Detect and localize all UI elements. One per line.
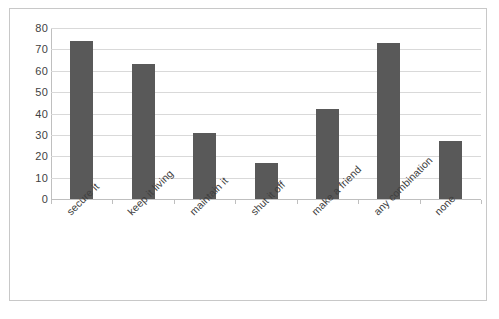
- y-axis-tick-label: 70: [22, 44, 48, 55]
- gridline: [51, 92, 481, 93]
- gridline: [51, 28, 481, 29]
- bar: [377, 43, 400, 199]
- gridline: [51, 114, 481, 115]
- y-axis-tick-label: 60: [22, 66, 48, 77]
- x-axis-tick-mark: [174, 200, 175, 204]
- chart-plot-wrapper: 80706050403020100 secure itkeep it livin…: [10, 9, 486, 300]
- y-axis-tick-label: 20: [22, 151, 48, 162]
- x-axis-tick-mark: [112, 200, 113, 204]
- y-axis-tick-label: 0: [22, 194, 48, 205]
- y-axis-tick-label: 80: [22, 23, 48, 34]
- y-axis-tick-label: 50: [22, 87, 48, 98]
- y-axis-tick-label: 30: [22, 130, 48, 141]
- bar: [132, 64, 155, 199]
- gridline: [51, 156, 481, 157]
- bar: [70, 41, 93, 199]
- gridline: [51, 71, 481, 72]
- x-axis-tick-mark: [420, 200, 421, 204]
- x-axis-tick-mark: [51, 200, 52, 204]
- y-axis-tick-label: 10: [22, 173, 48, 184]
- gridline: [51, 135, 481, 136]
- y-axis-tick-labels: 80706050403020100: [18, 28, 48, 199]
- x-axis-tick-mark: [358, 200, 359, 204]
- gridline: [51, 49, 481, 50]
- x-axis-tick-labels: secure itkeep it livingmaintain itshut i…: [51, 205, 481, 300]
- y-axis-tick-label: 40: [22, 109, 48, 120]
- chart-frame: 80706050403020100 secure itkeep it livin…: [9, 8, 487, 301]
- x-axis-tick-mark: [235, 200, 236, 204]
- x-axis-tick-mark: [481, 200, 482, 204]
- bar: [439, 141, 462, 199]
- x-axis-tick-mark: [297, 200, 298, 204]
